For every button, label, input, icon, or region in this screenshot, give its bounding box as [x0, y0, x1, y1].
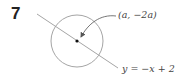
center-point-label: (a, −2a) — [118, 10, 157, 20]
line-equation-label: y = −x + 2 — [122, 64, 175, 74]
center-point — [75, 39, 78, 42]
